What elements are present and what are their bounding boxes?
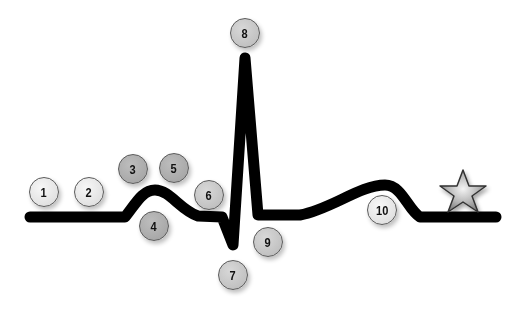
marker-4: 4 xyxy=(139,211,169,241)
marker-1: 1 xyxy=(29,177,59,207)
marker-3: 3 xyxy=(118,154,148,184)
marker-10: 10 xyxy=(367,195,397,225)
marker-5: 5 xyxy=(159,153,189,183)
ecg-diagram: 1 2 3 4 5 6 7 8 9 10 xyxy=(0,0,526,310)
marker-6: 6 xyxy=(194,180,224,210)
marker-7: 7 xyxy=(218,260,248,290)
marker-8: 8 xyxy=(230,18,260,48)
marker-9: 9 xyxy=(253,227,283,257)
ecg-waveform xyxy=(0,0,526,310)
star-icon xyxy=(440,170,486,212)
ecg-trace xyxy=(30,58,496,245)
marker-2: 2 xyxy=(74,177,104,207)
